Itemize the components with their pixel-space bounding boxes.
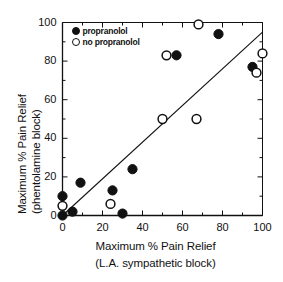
x-tick-label: 60 [168,221,198,233]
open-circle-icon [72,38,80,46]
data-point-propranolol [118,209,127,218]
scatter-plot-figure: Maximum % Pain Relief (phentolamine bloc… [0,0,283,282]
x-axis-title-line2: (L.A. sympathetic block) [14,257,283,269]
y-tick-label: 20 [31,170,57,182]
data-point-propranolol [214,29,223,38]
data-point-no-propranolol [252,68,261,77]
legend-label-propranolol: propranolol [83,26,128,37]
y-tick-label: 100 [31,16,57,28]
filled-circle-icon [72,27,80,35]
x-tick-label: 100 [248,221,278,233]
data-point-propranolol [58,192,67,201]
data-point-propranolol [58,211,67,220]
x-tick-label: 0 [48,221,78,233]
data-point-propranolol [128,165,137,174]
legend: propranolol no propranolol [72,26,140,47]
legend-item-propranolol: propranolol [72,26,140,37]
data-point-no-propranolol [192,115,201,124]
y-tick-label: 80 [31,54,57,66]
x-axis-title-line1: Maximum % Pain Relief [14,240,283,252]
data-point-no-propranolol [258,49,267,58]
data-point-no-propranolol [158,115,167,124]
y-tick-label: 60 [31,93,57,105]
x-tick-label: 40 [128,221,158,233]
legend-item-no-propranolol: no propranolol [72,37,140,48]
legend-label-no-propranolol: no propranolol [83,37,140,48]
data-point-propranolol [108,186,117,195]
data-point-no-propranolol [194,20,203,29]
data-point-propranolol [76,178,85,187]
x-tick-label: 20 [88,221,118,233]
y-tick-label: 0 [31,209,57,221]
data-point-propranolol [172,51,181,60]
y-tick-label: 40 [31,131,57,143]
data-point-no-propranolol [106,200,115,209]
x-tick-label: 80 [208,221,238,233]
data-point-no-propranolol [58,201,67,210]
data-point-propranolol [68,207,77,216]
data-point-no-propranolol [162,51,171,60]
y-axis-title-line2: (phentolamine block) [30,109,42,214]
data-points [58,20,267,220]
y-axis-title-line1: Maximum % Pain Relief [16,94,28,214]
